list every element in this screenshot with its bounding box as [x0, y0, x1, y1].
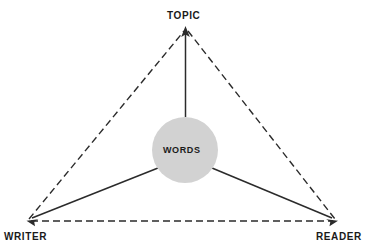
- vertex-label-topic: TOPIC: [167, 11, 200, 21]
- dashed-edge-topic-reader: [188, 31, 335, 219]
- arrowhead-writer: [27, 219, 39, 226]
- vertex-label-writer: WRITER: [4, 232, 47, 242]
- communication-triangle-diagram: TOPIC WRITER READER WORDS: [0, 0, 373, 249]
- solid-arrow-words-to-reader-shaft: [212, 168, 332, 218]
- arrowhead-reader: [326, 219, 338, 226]
- dashed-edge-writer-topic: [29, 31, 184, 219]
- vertex-label-reader: READER: [316, 232, 362, 242]
- node-label-words: WORDS: [163, 146, 201, 155]
- diagram-canvas: [0, 0, 373, 249]
